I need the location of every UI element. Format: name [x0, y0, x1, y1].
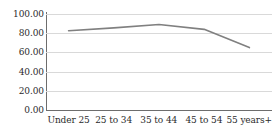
y-tick-label: 60.00: [2, 48, 44, 57]
x-axis-line: [46, 110, 272, 111]
y-tick-label: 40.00: [2, 68, 44, 77]
data-series-line: [46, 14, 272, 110]
y-tick-label: 80.00: [2, 29, 44, 38]
y-axis-tick-labels: 100.00 80.00 60.00 40.00 20.00 0.00: [0, 0, 44, 138]
x-tick-label-25-to-34: 25 to 34: [91, 114, 136, 134]
x-tick-label-under-25: Under 25: [46, 114, 91, 134]
x-tick-label-45-to-54: 45 to 54: [181, 114, 226, 134]
y-tick-label: 20.00: [2, 87, 44, 96]
x-tick-label-55-years-plus: 55 years+: [226, 114, 272, 134]
x-tick-label-35-to-44: 35 to 44: [136, 114, 181, 134]
x-axis-tick-labels: Under 25 25 to 34 35 to 44 45 to 54 55 y…: [46, 114, 272, 134]
line-chart-figure: 100.00 80.00 60.00 40.00 20.00 0.00 Unde…: [0, 0, 280, 138]
y-tick-label: 0.00: [2, 106, 44, 115]
y-tick-label: 100.00: [2, 10, 44, 19]
plot-area: [46, 14, 272, 110]
